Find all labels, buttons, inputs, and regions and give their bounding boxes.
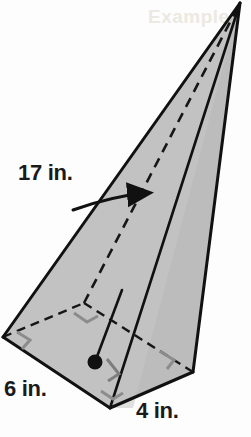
slant-height-label: 17 in. <box>18 162 72 184</box>
pyramid-drawing <box>0 0 251 437</box>
base-center-dot <box>88 355 103 370</box>
base-depth-label: 4 in. <box>136 400 179 422</box>
base-width-label: 6 in. <box>4 378 47 400</box>
pyramid-figure: Example <box>0 0 251 437</box>
